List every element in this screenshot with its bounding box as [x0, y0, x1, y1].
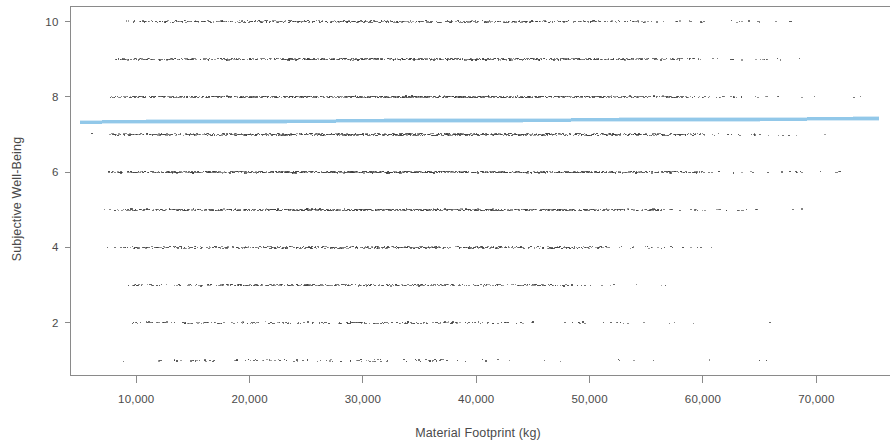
svg-text:30,000: 30,000 — [345, 393, 381, 405]
svg-text:10,000: 10,000 — [118, 393, 154, 405]
y-axis-title: Subjective Well-Being — [10, 119, 24, 279]
svg-text:70,000: 70,000 — [798, 393, 834, 405]
svg-text:8: 8 — [52, 91, 59, 103]
x-axis-title: Material Footprint (kg) — [378, 426, 578, 440]
svg-text:40,000: 40,000 — [458, 393, 494, 405]
svg-text:2: 2 — [52, 317, 59, 329]
scatter-plot-figure: 24681010,00020,00030,00040,00050,00060,0… — [0, 0, 890, 447]
scatter-points — [91, 20, 861, 362]
svg-text:4: 4 — [52, 241, 59, 253]
plot-frame — [71, 7, 890, 376]
plot-canvas: 24681010,00020,00030,00040,00050,00060,0… — [0, 0, 890, 447]
regression-line — [80, 119, 879, 122]
svg-text:20,000: 20,000 — [231, 393, 267, 405]
svg-text:10: 10 — [45, 16, 58, 28]
svg-text:60,000: 60,000 — [685, 393, 721, 405]
svg-text:50,000: 50,000 — [571, 393, 607, 405]
svg-text:6: 6 — [52, 166, 59, 178]
axis-ticks — [65, 22, 817, 383]
